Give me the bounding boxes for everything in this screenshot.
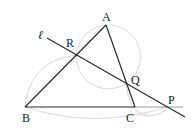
geometry-diagram: A R Q P B C ℓ (0, 0, 194, 130)
label-B: B (22, 111, 30, 125)
segment-AC (106, 25, 135, 107)
label-A: A (102, 10, 111, 24)
label-C: C (126, 111, 134, 125)
label-Q: Q (131, 73, 140, 87)
label-line-l: ℓ (38, 28, 43, 42)
label-P: P (168, 93, 175, 107)
diagram-canvas: A R Q P B C ℓ (0, 0, 194, 130)
circle-BRP-lower (25, 107, 167, 119)
label-R: R (66, 36, 74, 50)
